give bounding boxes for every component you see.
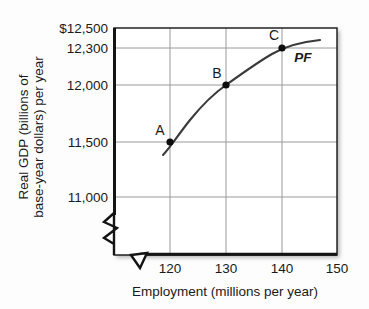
y-tick-label-12500: $12,500 — [59, 21, 108, 36]
data-point-label-c: C — [269, 27, 279, 43]
chart-figure: A B C PF $12,500 12,300 12,000 11,500 11… — [0, 0, 369, 309]
production-function-chart: A B C PF $12,500 12,300 12,000 11,500 11… — [0, 0, 369, 309]
y-axis-title-line2: base-year dollars) per year — [31, 56, 46, 218]
data-point-c — [278, 44, 285, 51]
x-tick-label-150: 150 — [326, 261, 349, 276]
data-point-b — [222, 81, 229, 88]
y-tick-label-11000: 11,000 — [68, 190, 108, 205]
data-point-a — [166, 138, 173, 145]
y-axis-title: Real GDP (billions of base-year dollars)… — [16, 56, 46, 218]
y-tick-label-12300: 12,300 — [67, 41, 108, 56]
curve-label-pf: PF — [294, 50, 312, 65]
y-axis-title-line1: Real GDP (billions of — [16, 74, 31, 199]
x-axis-title: Employment (millions per year) — [132, 284, 318, 299]
y-tick-label-12000: 12,000 — [67, 78, 108, 93]
data-point-label-a: A — [155, 122, 165, 138]
x-tick-label-130: 130 — [215, 261, 238, 276]
data-point-label-b: B — [212, 65, 221, 81]
x-tick-label-140: 140 — [271, 261, 294, 276]
x-tick-label-120: 120 — [159, 261, 182, 276]
y-tick-label-11500: 11,500 — [68, 135, 108, 150]
